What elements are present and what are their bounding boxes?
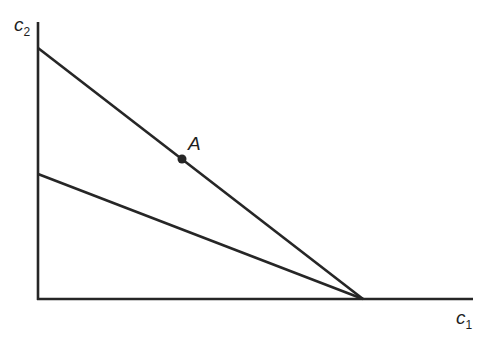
diagram-canvas — [0, 0, 492, 344]
y-axis-label: c2 — [14, 14, 30, 39]
budget-line-lower — [38, 174, 363, 299]
budget-line-upper — [38, 48, 363, 299]
point-a-marker — [178, 155, 187, 164]
x-axis-label: c1 — [456, 307, 472, 332]
point-a-label: A — [188, 133, 201, 155]
